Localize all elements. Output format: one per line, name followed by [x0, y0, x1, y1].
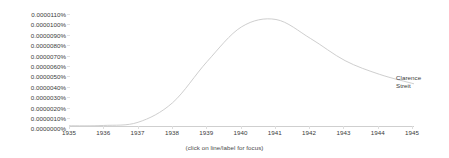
focus-hint-text: (click on line/label for focus): [0, 143, 449, 152]
y-tick-label: 0.0000110%: [0, 11, 66, 18]
y-tick-label: 0.0000040%: [0, 84, 66, 91]
x-axis-line: [69, 126, 414, 127]
y-tick-label: 0.0000050%: [0, 73, 66, 80]
ngram-chart: 0.0000110% 0.0000100% 0.0000090% 0.00000…: [0, 0, 449, 158]
x-axis-labels: 1935 1936 1937 1938 1939 1940 1941 1942 …: [0, 128, 449, 140]
y-axis-labels: 0.0000110% 0.0000100% 0.0000090% 0.00000…: [0, 0, 66, 140]
plot-area: [69, 10, 414, 126]
series-path[interactable]: [69, 19, 414, 126]
y-tick-label: 0.0000100%: [0, 21, 66, 28]
y-tick-label: 0.0000090%: [0, 32, 66, 39]
y-tick-label: 0.0000070%: [0, 53, 66, 60]
y-tick-label: 0.0000010%: [0, 115, 66, 122]
y-tick-label: 0.0000060%: [0, 63, 66, 70]
series-legend-label-line-1: Clarence: [396, 74, 448, 82]
series-legend-label-clarence-streit[interactable]: Clarence Streit: [396, 74, 448, 90]
y-tick-label: 0.0000020%: [0, 105, 66, 112]
y-tick-label: 0.0000030%: [0, 94, 66, 101]
series-line-clarence-streit[interactable]: [69, 10, 414, 126]
y-tick-label: 0.0000080%: [0, 42, 66, 49]
x-tick-label: 1945: [392, 128, 432, 137]
series-legend-label-line-2: Streit: [396, 82, 448, 90]
